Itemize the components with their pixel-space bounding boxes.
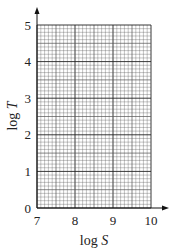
y-tick-label: 1 [25, 164, 32, 179]
graph-paper-chart: 78910 012345 log S log T [0, 0, 177, 251]
y-axis-label: log T [5, 100, 20, 130]
x-tick-label: 7 [34, 213, 41, 228]
x-tick-labels: 78910 [34, 213, 158, 228]
x-tick-label: 9 [110, 213, 117, 228]
y-tick-label: 3 [25, 91, 32, 106]
x-tick-label: 8 [72, 213, 79, 228]
x-tick-label: 10 [145, 213, 158, 228]
y-tick-label: 4 [25, 54, 32, 69]
y-tick-label: 5 [25, 18, 32, 33]
y-tick-label: 0 [25, 201, 32, 216]
grid [37, 25, 151, 208]
y-tick-labels: 012345 [25, 18, 32, 216]
y-tick-label: 2 [25, 127, 32, 142]
x-axis-arrow-icon [162, 206, 169, 211]
x-axis-label: log S [80, 233, 108, 248]
y-axis-arrow-icon [35, 7, 40, 14]
